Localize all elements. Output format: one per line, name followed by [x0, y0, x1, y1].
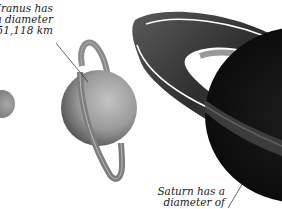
saturn-leader-line [228, 181, 244, 208]
uranus-diameter-label: Uranus has a diameter of 51,118 km [0, 3, 53, 36]
saturn-diameter-label: Saturn has a diameter of [157, 186, 225, 208]
saturn-label-line-2: diameter of [157, 197, 225, 208]
uranus-planet [61, 70, 137, 146]
partial-planet-left [0, 90, 15, 118]
uranus-label-line-3: of 51,118 km [0, 25, 53, 36]
planet-comparison-illustration: Uranus has a diameter of 51,118 km Satur… [0, 0, 282, 209]
